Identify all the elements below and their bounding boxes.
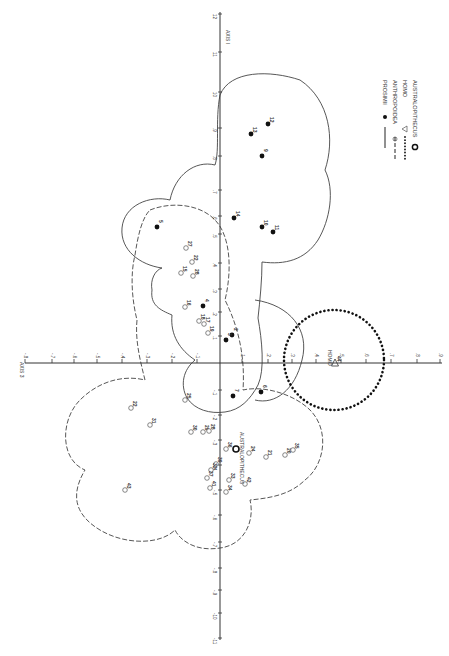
homo-envelope [284, 310, 384, 410]
homo-annotation: HOMO [327, 350, 333, 366]
horizontal-tick-label: -.1 [195, 353, 200, 359]
point-label: 14 [235, 211, 241, 217]
ringed-circle-icon [233, 446, 239, 452]
horizontal-tick-label: -.5 [95, 353, 100, 359]
point-label: 15 [182, 266, 188, 272]
vertical-tick-label: .7 [212, 190, 217, 194]
point-label: 13 [252, 127, 258, 133]
legend-label: ANTHROPOIDEA [392, 80, 398, 124]
point-label: 25 [186, 393, 192, 399]
horizontal-tick-label: .2 [266, 353, 271, 357]
point-prosimii: 14 [232, 211, 241, 220]
point-label: 32 [212, 463, 218, 469]
vertical-tick-label: .3 [212, 289, 217, 293]
horizontal-tick-label: .8 [415, 353, 420, 357]
point-australopithecus [233, 446, 239, 452]
legend: PROSIMIIANTHROPOIDEAHOMOAUSTRALOPITHECUS [382, 80, 418, 160]
vertical-tick-label: .8 [212, 156, 217, 160]
horizontal-tick-label: .9 [438, 353, 443, 357]
point-label: 41 [211, 481, 217, 487]
vertical-tick-label: -10 [212, 613, 217, 620]
point-anthropoidea: 21 [264, 450, 273, 459]
point-label: 37 [208, 471, 214, 477]
point-anthropoidea: 16 [183, 300, 192, 309]
point-label: 33 [230, 473, 236, 479]
horizontal-tick-label: .6 [364, 353, 369, 357]
point-label: 5 [158, 220, 164, 223]
filled-circle-icon [224, 338, 229, 343]
vertical-tick-label: .6 [212, 216, 217, 220]
filled-circle-icon [231, 394, 236, 399]
horizontal-tick-label: .3 [290, 353, 295, 357]
point-label: 3 [227, 333, 233, 336]
point-anthropoidea: 41 [208, 481, 217, 490]
point-label: 28 [194, 269, 200, 275]
prosimii-envelope [122, 74, 330, 413]
point-label: 4 [204, 299, 210, 302]
point-label: 6 [262, 385, 268, 388]
point-prosimii: 9 [260, 149, 269, 158]
point-label: 44 [336, 356, 342, 362]
vertical-tick-label: .4 [212, 263, 217, 267]
point-anthropoidea: 25 [183, 393, 192, 402]
horizontal-tick-label: .7 [389, 353, 394, 357]
point-label: 36 [227, 442, 233, 448]
point-anthropoidea: 35 [291, 443, 300, 452]
point-label: 9 [263, 149, 269, 152]
morphometric-scatter-diagram: 121110.9.8.7.6.5.4.3.2.1-.1-.2-.3-.4-.5-… [0, 0, 449, 656]
vertical-tick-label: -.5 [212, 490, 217, 496]
horizontal-tick-label: -.7 [50, 353, 55, 359]
point-label: 31 [151, 418, 157, 424]
point-anthropoidea: 36 [224, 442, 233, 451]
legend-label: PROSIMII [382, 80, 388, 105]
point-anthropoidea: 22 [190, 255, 199, 264]
point-anthropoidea: 22 [129, 401, 138, 410]
point-prosimii: 12 [266, 117, 275, 126]
point-label: 28 [210, 424, 216, 430]
point-prosimii: 10 [260, 220, 269, 229]
legend-label: HOMO [402, 80, 408, 98]
point-anthropoidea: 30 [189, 425, 198, 434]
point-label: 17 [205, 317, 211, 323]
point-label: 27 [187, 241, 193, 247]
point-label: 22 [132, 401, 138, 407]
horizontal-axis: -.8-.7-.6-.5-.4-.3-.2-.1.1.2.3.4.5.6.7.8… [19, 353, 443, 378]
vertical-tick-label: -.8 [212, 568, 217, 574]
point-anthropoidea: 27 [184, 241, 193, 250]
point-label: 16 [186, 300, 192, 306]
horizontal-axis-label: AXIS 3 [19, 362, 25, 378]
point-label: 12 [269, 117, 275, 123]
point-prosimii: 3 [224, 333, 233, 342]
point-prosimii: 11 [271, 225, 280, 234]
point-anthropoidea: 33 [227, 473, 236, 482]
australopithecus-annotation: AUSTRALOPITHECUS [239, 432, 245, 485]
point-label: 30 [192, 425, 198, 431]
horizontal-tick-label: .1 [240, 353, 245, 357]
point-anthropoidea: 28 [191, 269, 200, 278]
point-label: 7 [234, 389, 240, 392]
point-label: 39 [217, 457, 223, 463]
point-label: 34 [227, 485, 233, 491]
horizontal-tick-label: -.4 [120, 353, 125, 359]
vertical-tick-label: -.7 [212, 542, 217, 548]
point-anthropoidea: 43 [123, 483, 132, 492]
point-anthropoidea: 34 [224, 485, 233, 494]
point-label: 2 [233, 328, 239, 331]
horizontal-tick-label: -.3 [145, 353, 150, 359]
point-prosimii: 7 [231, 389, 240, 398]
point-prosimii: 5 [155, 220, 164, 229]
open-triangle-icon [402, 126, 407, 132]
point-label: 21 [267, 450, 273, 456]
point-label: 24 [250, 446, 256, 452]
vertical-tick-label: .9 [212, 128, 217, 132]
filled-circle-icon [271, 230, 276, 235]
point-anthropoidea: 24 [247, 446, 256, 455]
point-label: 10 [263, 220, 269, 226]
vertical-tick-label: -.2 [212, 415, 217, 421]
vertical-tick-label: 12 [212, 14, 217, 20]
filled-circle-icon [260, 154, 265, 159]
vertical-tick-label: -.1 [212, 390, 217, 396]
vertical-tick-label: -11 [212, 638, 217, 645]
filled-circle-icon [259, 390, 264, 395]
horizontal-tick-label: .4 [314, 353, 319, 357]
